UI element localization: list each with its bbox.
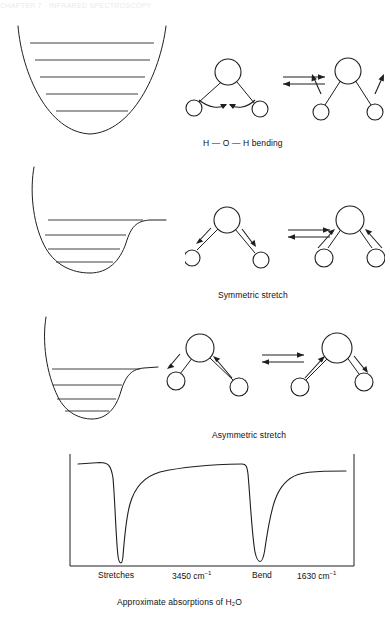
- symmetric-stretch-molecule-diagram: [185, 196, 385, 288]
- equilibrium-arrow-asymmetric: [262, 352, 304, 365]
- asymmetric-stretch-molecule-right: [291, 333, 373, 396]
- bending-molecule-left: [186, 59, 268, 117]
- bend-exponent: −1: [330, 570, 337, 576]
- figure-caption: Approximate absorptions of H₂O: [117, 597, 242, 607]
- asymmetric-stretch-molecule-diagram: [160, 322, 385, 418]
- bending-mode-label: H — O — H bending: [203, 138, 283, 148]
- stretches-exponent: −1: [205, 570, 212, 576]
- bending-molecule-diagram: [185, 50, 385, 138]
- spectrum-value-stretches: 3450 cm−1: [172, 570, 211, 581]
- symmetric-stretch-mode-label: Symmetric stretch: [218, 290, 288, 300]
- spectrum-value-bend: 1630 cm−1: [297, 570, 336, 581]
- running-head: CHAPTER 7 · INFRARED SPECTROSCOPY: [0, 0, 390, 12]
- spectrum-label-stretches: Stretches: [98, 570, 134, 580]
- equilibrium-arrow-bending: [283, 74, 325, 87]
- spectrum-label-bend: Bend: [252, 570, 272, 580]
- spectrum-trace: [78, 463, 346, 564]
- figure-root: CHAPTER 7 · INFRARED SPECTROSCOPY: [0, 0, 390, 620]
- stretches-wavenumber: 3450 cm: [172, 571, 205, 581]
- bend-wavenumber: 1630 cm: [297, 571, 330, 581]
- symmetric-stretch-molecule-left: [185, 207, 269, 268]
- equilibrium-arrow-symmetric: [288, 227, 330, 240]
- bending-molecule-right: [312, 58, 385, 120]
- bending-potential-well: [8, 22, 178, 150]
- asymmetric-stretch-molecule-left: [167, 334, 248, 396]
- ir-spectrum-plot: [56, 452, 368, 570]
- asymmetric-stretch-mode-label: Asymmetric stretch: [212, 430, 286, 440]
- symmetric-stretch-potential-well: [10, 165, 175, 285]
